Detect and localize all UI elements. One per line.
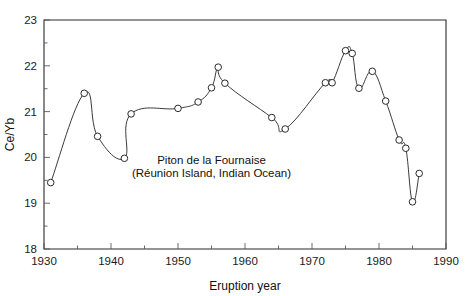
data-point-marker — [175, 105, 182, 112]
data-point-marker — [349, 50, 356, 57]
series-group — [47, 46, 422, 205]
x-tick-label: 1980 — [366, 255, 392, 267]
data-point-marker — [269, 114, 276, 121]
x-tick-label: 1970 — [299, 255, 325, 267]
data-point-marker — [47, 179, 54, 186]
data-point-marker — [94, 133, 101, 140]
data-point-marker — [403, 145, 410, 152]
data-point-marker — [396, 137, 403, 144]
x-tick-label: 1940 — [98, 255, 124, 267]
volcano-name: Piton de la Fournaise — [157, 154, 266, 166]
data-point-marker — [329, 79, 336, 86]
data-point-marker — [356, 85, 363, 92]
data-point-marker — [121, 155, 128, 162]
y-tick-label: 18 — [24, 243, 37, 255]
chart-figure: 181920212223 193019401950196019701980199… — [0, 0, 466, 296]
y-axis-tick-labels: 181920212223 — [24, 14, 37, 255]
x-tick-label: 1960 — [232, 255, 258, 267]
data-point-marker — [128, 111, 135, 118]
data-point-marker — [409, 199, 416, 206]
y-tick-label: 23 — [24, 14, 37, 26]
data-point-marker — [195, 99, 202, 106]
x-tick-label: 1930 — [31, 255, 57, 267]
data-markers — [47, 47, 422, 205]
y-tick-label: 19 — [24, 197, 37, 209]
axes-border — [44, 20, 446, 249]
data-point-marker — [322, 79, 329, 86]
data-point-marker — [208, 84, 215, 91]
chart-annotations: Piton de la Fournaise(Réunion Island, In… — [132, 154, 291, 179]
x-axis-ticks — [44, 243, 446, 249]
data-point-marker — [81, 90, 88, 97]
y-tick-label: 21 — [24, 106, 37, 118]
data-point-marker — [222, 80, 229, 87]
volcano-location: (Réunion Island, Indian Ocean) — [132, 167, 291, 179]
y-tick-label: 22 — [24, 60, 37, 72]
x-axis-title: Eruption year — [209, 279, 280, 293]
y-tick-label: 20 — [24, 151, 37, 163]
x-tick-label: 1990 — [433, 255, 459, 267]
y-axis-ticks — [44, 20, 50, 249]
data-point-marker — [416, 170, 423, 177]
y-axis-title: Ce/Yb — [3, 118, 17, 152]
data-point-marker — [369, 68, 376, 75]
data-point-marker — [282, 126, 289, 133]
data-point-marker — [215, 64, 222, 71]
data-point-marker — [382, 98, 389, 105]
data-line — [51, 46, 420, 202]
data-point-marker — [342, 47, 349, 54]
x-tick-label: 1950 — [165, 255, 191, 267]
axes-frame — [44, 20, 446, 249]
x-axis-tick-labels: 1930194019501960197019801990 — [31, 255, 459, 267]
chart-canvas: 181920212223 193019401950196019701980199… — [0, 0, 466, 296]
